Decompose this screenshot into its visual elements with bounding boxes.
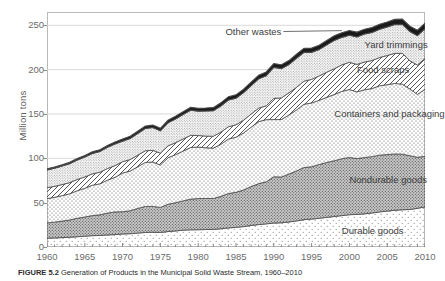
leader-line-other-wastes [283,31,341,32]
x-tick-label-1990: 1990 [254,252,294,262]
y-tick-mark-100 [43,158,47,159]
y-tick-mark-200 [43,70,47,71]
y-tick-label-200: 200 [14,65,44,75]
series-label-other-wastes: Other wastes [225,27,281,37]
x-tick-label-2000: 2000 [329,252,369,262]
caption-text: Generation of Products in the Municipal … [61,268,302,277]
series-label-containers-and-packaging: Containers and packaging [334,109,444,119]
x-tick-label-1970: 1970 [103,252,143,262]
series-areas [47,19,425,247]
series-label-nondurable-goods: Nondurable goods [349,175,427,185]
series-label-food-scraps: Food scraps [357,65,409,75]
y-tick-mark-250 [43,25,47,26]
series-label-yard-trimmings: Yard trimmings [365,40,428,50]
y-tick-label-150: 150 [14,109,44,119]
y-tick-label-100: 100 [14,153,44,163]
y-tick-mark-50 [43,203,47,204]
y-tick-label-50: 50 [14,198,44,208]
y-axis-ticks: 250 200 150 100 50 0 [10,0,44,266]
x-tick-label-1995: 1995 [292,252,332,262]
x-tick-label-2010: 2010 [405,252,445,262]
x-tick-label-1980: 1980 [178,252,218,262]
figure-caption: FIGURE 5.2 Generation of Products in the… [18,268,438,277]
y-tick-label-250: 250 [14,20,44,30]
caption-label: FIGURE 5.2 [18,268,59,277]
x-tick-label-2005: 2005 [367,252,407,262]
x-tick-label-1965: 1965 [65,252,105,262]
y-tick-mark-150 [43,114,47,115]
chart-area: Million tons 250 200 150 100 50 0 [0,0,441,266]
series-label-durable-goods: Durable goods [342,226,404,236]
x-tick-label-1975: 1975 [140,252,180,262]
x-tick-label-1960: 1960 [27,252,67,262]
y-tick-mark-0 [43,247,47,248]
x-tick-label-1985: 1985 [216,252,256,262]
